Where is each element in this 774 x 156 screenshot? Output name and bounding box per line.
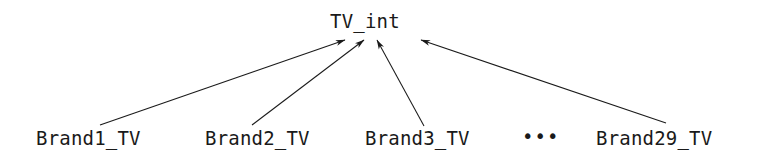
ellipsis-separator: ••• [522, 127, 559, 146]
node-brand3-tv: Brand3_TV [365, 129, 470, 148]
node-tv-int: TV_int [330, 12, 400, 31]
edge-brand29-to-tvint [421, 40, 666, 123]
node-brand29-tv: Brand29_TV [596, 129, 712, 148]
node-brand2-tv: Brand2_TV [205, 129, 310, 148]
node-brand1-tv: Brand1_TV [36, 129, 141, 148]
edge-brand3-to-tvint [377, 40, 424, 126]
diagram-canvas: TV_int Brand1_TV Brand2_TV Brand3_TV •••… [0, 0, 774, 156]
